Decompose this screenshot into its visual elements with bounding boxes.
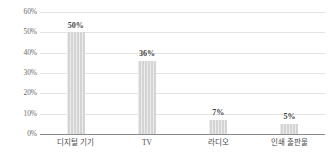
bar-value-label: 7%: [212, 109, 224, 117]
y-tick-label: 30%: [3, 69, 37, 77]
bar-value-label: 5%: [283, 113, 295, 121]
x-axis: 디지털 기기 TV 라디오 인쇄 출판물: [40, 138, 325, 154]
bar-chart: 60% 50% 40% 30% 20% 10% 0% 50% 36% 7% 5%…: [0, 0, 335, 163]
bar-print-publications[interactable]: [280, 124, 298, 134]
bar-digital-devices[interactable]: [67, 32, 85, 134]
y-tick-label: 20%: [3, 90, 37, 98]
x-tick-label-radio: 라디오: [208, 138, 229, 147]
bars-layer: 50% 36% 7% 5%: [40, 12, 325, 134]
axis-baseline: [40, 134, 325, 135]
bar-group-2: 7%: [183, 12, 254, 134]
bar-group-3: 5%: [254, 12, 325, 134]
bar-radio[interactable]: [209, 120, 227, 134]
y-tick-label: 40%: [3, 49, 37, 57]
bar-group-1: 36%: [111, 12, 182, 134]
y-axis: 60% 50% 40% 30% 20% 10% 0%: [0, 12, 37, 134]
y-tick-label: 50%: [3, 29, 37, 37]
x-tick-label-tv: TV: [142, 138, 152, 147]
bar-value-label: 36%: [139, 50, 155, 58]
y-tick-label: 10%: [3, 110, 37, 118]
x-tick-label-print-publications: 인쇄 출판물: [271, 138, 308, 147]
x-tick-label-digital-devices: 디지털 기기: [57, 138, 94, 147]
bar-value-label: 50%: [68, 22, 84, 30]
bar-group-0: 50%: [40, 12, 111, 134]
y-tick-label: 60%: [3, 8, 37, 16]
bar-tv[interactable]: [138, 61, 156, 134]
y-tick-label: 0%: [3, 130, 37, 138]
